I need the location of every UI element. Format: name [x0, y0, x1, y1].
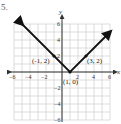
data-point [68, 70, 71, 73]
y-tick-label: −4 [54, 101, 60, 107]
y-tick-label: −2 [54, 85, 60, 91]
x-tick-label: 6 [108, 74, 111, 80]
point-label-neg1-2: (-1, 2) [32, 57, 50, 65]
graph: y x −6−4−2246 642−2−4−6 (-1, 2) (1, 0) (… [0, 0, 121, 124]
y-axis-label: y [58, 8, 63, 16]
x-tick-label: 4 [92, 74, 95, 80]
x-axis-label: x [116, 68, 121, 76]
y-tick-label: −6 [54, 117, 60, 123]
x-tick-labels: −6−4−2246 [9, 74, 111, 80]
y-tick-label: 6 [57, 21, 60, 27]
y-tick-label: 2 [57, 53, 60, 59]
y-tick-label: 4 [57, 37, 60, 43]
x-tick-label: −4 [25, 74, 31, 80]
data-point [52, 54, 55, 57]
point-label-3-2: (3, 2) [87, 57, 103, 65]
x-tick-label: −6 [9, 74, 15, 80]
point-label-1-0: (1, 0) [63, 78, 79, 86]
x-tick-label: −2 [41, 74, 47, 80]
